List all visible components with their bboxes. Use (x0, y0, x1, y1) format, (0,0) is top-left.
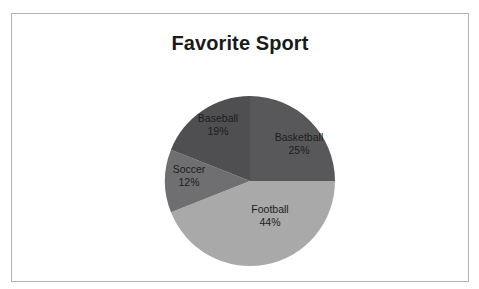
pie-label-soccer-value: 12% (158, 176, 220, 189)
pie-label-basketball-name: Basketball (257, 131, 341, 144)
chart-screenshot: Favorite Sport Basketball 25% Football 4… (0, 0, 479, 289)
pie-label-baseball-name: Baseball (182, 112, 254, 125)
chart-frame: Favorite Sport Basketball 25% Football 4… (11, 13, 469, 282)
pie-chart: Basketball 25% Football 44% Soccer 12% B… (154, 85, 346, 277)
pie-label-soccer-name: Soccer (158, 163, 220, 176)
pie-label-soccer: Soccer 12% (158, 163, 220, 189)
chart-title: Favorite Sport (12, 32, 468, 55)
pie-label-basketball: Basketball 25% (257, 131, 341, 157)
pie-label-football-name: Football (232, 203, 308, 216)
pie-label-basketball-value: 25% (257, 144, 341, 157)
pie-label-football: Football 44% (232, 203, 308, 229)
pie-label-football-value: 44% (232, 216, 308, 229)
pie-label-baseball: Baseball 19% (182, 112, 254, 138)
pie-label-baseball-value: 19% (182, 125, 254, 138)
